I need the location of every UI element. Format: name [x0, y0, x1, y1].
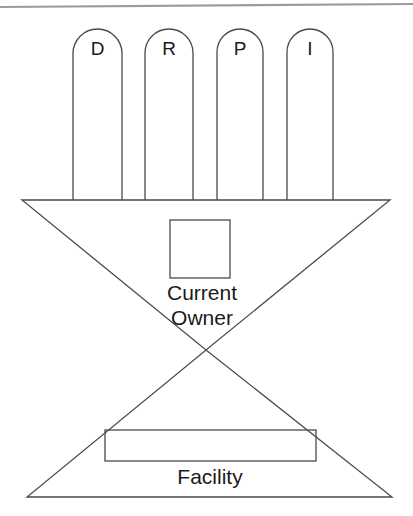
facility-box: [105, 430, 316, 461]
pillar-i: I: [287, 29, 333, 200]
pillar-r: R: [145, 29, 193, 200]
facility-label: Facility: [177, 465, 243, 488]
current-owner-label-line1: Current: [167, 281, 237, 304]
figure-root: D R P I Current Owner Facility: [0, 0, 413, 516]
page-top-rule: [0, 4, 413, 7]
pillar-d-label: D: [91, 38, 105, 59]
pillar-d: D: [73, 29, 122, 200]
pillar-p-label: P: [234, 38, 247, 59]
pillar-r-label: R: [162, 38, 176, 59]
pillar-p: P: [217, 29, 263, 200]
current-owner-box: [170, 220, 230, 278]
bowtie-diagram-canvas: D R P I Current Owner Facility: [0, 0, 413, 516]
current-owner-label-line2: Owner: [171, 306, 233, 329]
pillar-i-label: I: [307, 38, 312, 59]
